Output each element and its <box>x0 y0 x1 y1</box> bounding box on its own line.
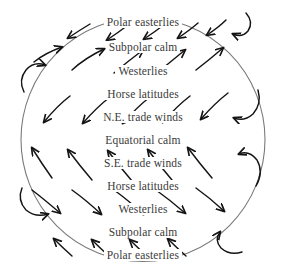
band-label-text: S.E. trade winds <box>101 157 185 169</box>
band-label-polar-easterlies-south: Polar easterlies <box>0 249 286 261</box>
band-label-text: Horse latitudes <box>104 180 182 192</box>
band-label-ne-trade-winds: N.E. trade winds <box>0 111 286 123</box>
band-label-text: Equatorial calm <box>102 134 183 146</box>
band-label-westerlies-north: Westerlies <box>0 65 286 77</box>
band-label-text: Westerlies <box>115 65 170 77</box>
band-label-subpolar-calm-south: Subpolar calm <box>0 226 286 238</box>
band-label-horse-latitudes-north: Horse latitudes <box>0 88 286 100</box>
band-label-text: Polar easterlies <box>104 249 182 261</box>
band-label-text: Subpolar calm <box>106 41 181 53</box>
band-label-text: Horse latitudes <box>104 88 182 100</box>
band-label-text: Subpolar calm <box>106 226 181 238</box>
band-label-se-trade-winds: S.E. trade winds <box>0 157 286 169</box>
band-label-text: N.E. trade winds <box>100 111 186 123</box>
band-label-text: Polar easterlies <box>104 16 182 28</box>
band-label-subpolar-calm-north: Subpolar calm <box>0 41 286 53</box>
band-label-horse-latitudes-south: Horse latitudes <box>0 180 286 192</box>
wind-belts-diagram: Polar easterlies Subpolar calm Westerlie… <box>0 0 286 279</box>
band-label-equatorial-calm: Equatorial calm <box>0 134 286 146</box>
band-label-polar-easterlies-north: Polar easterlies <box>0 16 286 28</box>
band-label-text: Westerlies <box>115 203 170 215</box>
band-label-westerlies-south: Westerlies <box>0 203 286 215</box>
